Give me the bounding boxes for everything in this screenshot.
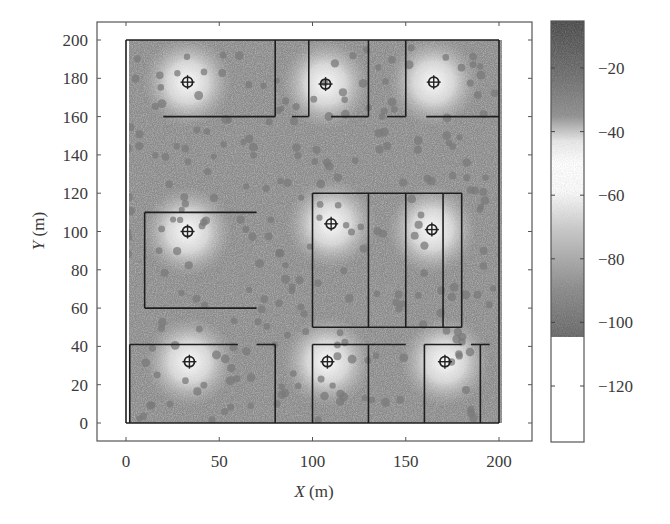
colorbar-tick-label: −20 [598,59,625,78]
access-point-glows [143,37,490,407]
y-tick-label: 180 [63,69,89,88]
y-tick-label: 200 [63,31,89,50]
coverage-heatmap-figure: 050100150200 020406080100120140160180200… [0,0,670,524]
y-tick-label: 40 [71,337,88,356]
x-tick-label: 100 [300,452,326,471]
y-tick-label: 0 [80,414,89,433]
colorbar-tick-label: −60 [598,186,625,205]
colorbar: −20−40−60−80−100−120 [551,21,633,442]
y-axis-label: Y (m) [29,212,48,250]
colorbar-tick-label: −100 [598,313,633,332]
x-tick-label: 150 [393,452,419,471]
y-tick-label: 140 [63,146,89,165]
colorbar-tick-label: −80 [598,250,625,269]
x-tick-label: 200 [486,452,512,471]
y-tick-label: 160 [63,108,89,127]
colorbar-tick-label: −40 [598,123,625,142]
y-tick-label: 60 [71,299,88,318]
y-tick-label: 80 [71,261,88,280]
x-tick-label: 0 [122,452,131,471]
x-tick-label: 50 [211,452,228,471]
y-tick-label: 20 [71,376,88,395]
y-tick-label: 120 [63,184,89,203]
colorbar-tick-label: −120 [598,377,633,396]
x-axis-label: X (m) [293,482,333,501]
y-tick-label: 100 [63,223,89,242]
